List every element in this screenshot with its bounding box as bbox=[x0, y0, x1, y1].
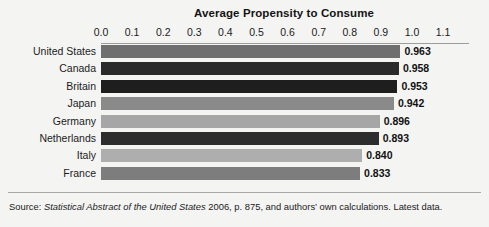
bar-value-label: 0.963 bbox=[404, 45, 430, 58]
source-title: Statistical Abstract of the United State… bbox=[44, 201, 206, 212]
bar-value-label: 0.896 bbox=[384, 115, 410, 128]
source-suffix: 2006, p. 875, and authors’ own calculati… bbox=[206, 201, 443, 212]
bar-value-label: 0.893 bbox=[383, 132, 409, 145]
bar bbox=[101, 80, 397, 93]
bar bbox=[101, 45, 400, 58]
bar-value-label: 0.958 bbox=[403, 62, 429, 75]
bar bbox=[101, 167, 360, 180]
bar-value-label: 0.942 bbox=[398, 97, 424, 110]
source-prefix: Source: bbox=[9, 201, 44, 212]
bar-row: United States0.963 bbox=[0, 45, 489, 58]
x-tick-label: 1.1 bbox=[423, 26, 463, 38]
footer-divider bbox=[8, 192, 481, 193]
bar bbox=[101, 149, 362, 162]
category-label: United States bbox=[0, 45, 96, 58]
bar-row: Japan0.942 bbox=[0, 97, 489, 110]
category-label: Germany bbox=[0, 115, 96, 128]
chart-title: Average Propensity to Consume bbox=[101, 7, 467, 19]
bar-value-label: 0.840 bbox=[366, 149, 392, 162]
category-label: Netherlands bbox=[0, 132, 96, 145]
bar-value-label: 0.953 bbox=[401, 80, 427, 93]
source-note: Source: Statistical Abstract of the Unit… bbox=[9, 201, 483, 213]
category-label: France bbox=[0, 167, 96, 180]
category-label: Italy bbox=[0, 149, 96, 162]
bar-row: Canada0.958 bbox=[0, 62, 489, 75]
bar bbox=[101, 97, 394, 110]
bar-value-label: 0.833 bbox=[364, 167, 390, 180]
figure-container: Average Propensity to Consume 0.00.10.20… bbox=[0, 0, 489, 227]
x-axis-ticks: 0.00.10.20.30.40.50.60.70.80.91.01.1 bbox=[0, 26, 489, 41]
bar-row: France0.833 bbox=[0, 167, 489, 180]
axis-rule bbox=[101, 43, 469, 44]
category-label: Japan bbox=[0, 97, 96, 110]
bar bbox=[101, 62, 399, 75]
bar bbox=[101, 115, 380, 128]
plot-area: United States0.963Canada0.958Britain0.95… bbox=[0, 45, 489, 188]
bar-row: Italy0.840 bbox=[0, 149, 489, 162]
category-label: Britain bbox=[0, 80, 96, 93]
bar-row: Germany0.896 bbox=[0, 115, 489, 128]
category-label: Canada bbox=[0, 62, 96, 75]
bar bbox=[101, 132, 379, 145]
bar-row: Netherlands0.893 bbox=[0, 132, 489, 145]
bar-row: Britain0.953 bbox=[0, 80, 489, 93]
